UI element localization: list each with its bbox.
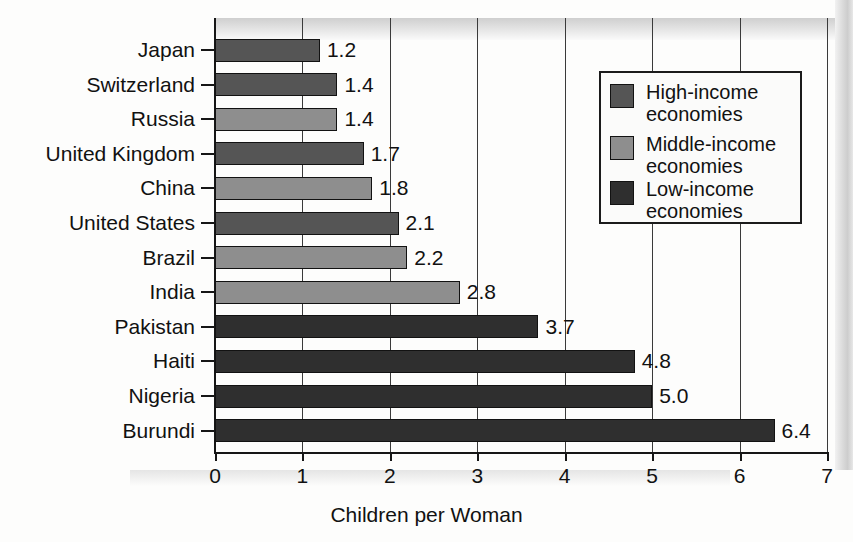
y-tick-mark	[201, 430, 215, 432]
bar-value-label: 5.0	[659, 384, 688, 408]
y-category-label: Burundi	[123, 419, 195, 443]
y-tick-mark	[201, 187, 215, 189]
x-tick-mark	[302, 452, 304, 461]
y-tick-mark	[201, 118, 215, 120]
legend-label: Low-income economies	[646, 178, 754, 222]
bar[interactable]	[215, 39, 320, 62]
x-tick-label: 2	[370, 464, 410, 488]
x-tick-mark	[827, 452, 829, 461]
bar-value-label: 2.2	[414, 246, 443, 270]
bar-value-label: 2.1	[406, 211, 435, 235]
bar-value-label: 2.8	[467, 280, 496, 304]
y-tick-mark	[201, 360, 215, 362]
x-tick-label: 1	[282, 464, 322, 488]
chart-figure: JapanSwitzerlandRussiaUnited KingdomChin…	[0, 0, 853, 542]
x-tick-mark	[477, 452, 479, 461]
bar[interactable]	[215, 73, 337, 96]
legend-label: Middle-income economies	[646, 133, 776, 177]
y-tick-mark	[201, 153, 215, 155]
x-tick-label: 5	[632, 464, 672, 488]
gridline	[827, 18, 828, 452]
y-tick-mark	[201, 49, 215, 51]
bar[interactable]	[215, 108, 337, 131]
scan-shadow-right	[835, 0, 853, 470]
y-tick-mark	[201, 395, 215, 397]
bar[interactable]	[215, 315, 538, 338]
bar[interactable]	[215, 281, 460, 304]
bar[interactable]	[215, 246, 407, 269]
y-category-label: United States	[69, 211, 195, 235]
bar-value-label: 4.8	[642, 349, 671, 373]
bar[interactable]	[215, 419, 775, 442]
x-tick-label: 3	[457, 464, 497, 488]
x-tick-label: 6	[720, 464, 760, 488]
legend-item-low[interactable]: Low-income economies	[610, 178, 754, 222]
legend-swatch-high	[610, 84, 634, 108]
x-tick-mark	[652, 452, 654, 461]
bar[interactable]	[215, 212, 399, 235]
y-category-label: Russia	[131, 107, 195, 131]
y-category-label: United Kingdom	[46, 142, 195, 166]
bar[interactable]	[215, 350, 635, 373]
bar-value-label: 1.8	[379, 176, 408, 200]
bar-value-label: 1.2	[327, 38, 356, 62]
x-tick-mark	[390, 452, 392, 461]
y-tick-mark	[201, 291, 215, 293]
y-category-label: China	[140, 176, 195, 200]
legend-label: High-income economies	[646, 81, 758, 125]
y-category-label: Haiti	[153, 349, 195, 373]
legend-swatch-low	[610, 181, 634, 205]
bar-value-label: 6.4	[782, 419, 811, 443]
bar-value-label: 1.4	[344, 107, 373, 131]
y-category-label: Pakistan	[114, 315, 195, 339]
legend-item-middle[interactable]: Middle-income economies	[610, 133, 776, 177]
x-tick-mark	[565, 452, 567, 461]
legend-item-high[interactable]: High-income economies	[610, 81, 758, 125]
y-tick-mark	[201, 222, 215, 224]
bar-value-label: 1.4	[344, 73, 373, 97]
bar[interactable]	[215, 142, 364, 165]
x-tick-label: 7	[807, 464, 847, 488]
y-category-label: Brazil	[142, 246, 195, 270]
y-tick-mark	[201, 84, 215, 86]
bar-value-label: 3.7	[545, 315, 574, 339]
bar[interactable]	[215, 385, 652, 408]
bar[interactable]	[215, 177, 372, 200]
bar-value-label: 1.7	[371, 142, 400, 166]
y-tick-mark	[201, 326, 215, 328]
y-category-label: Switzerland	[86, 73, 195, 97]
chart-legend: High-income economiesMiddle-income econo…	[599, 71, 802, 224]
y-category-label: India	[149, 280, 195, 304]
x-tick-mark	[740, 452, 742, 461]
y-category-label: Nigeria	[128, 384, 195, 408]
x-tick-label: 4	[545, 464, 585, 488]
y-tick-mark	[201, 257, 215, 259]
x-axis-line	[214, 452, 828, 454]
x-tick-label: 0	[195, 464, 235, 488]
legend-swatch-middle	[610, 136, 634, 160]
y-category-label: Japan	[138, 38, 195, 62]
x-axis-title: Children per Woman	[0, 503, 853, 527]
x-tick-mark	[215, 452, 217, 461]
